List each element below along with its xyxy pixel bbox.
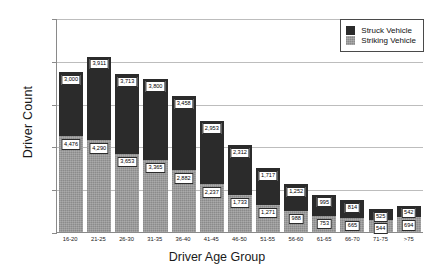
bar-segment-struck-vehicle: 3,458 [172, 96, 196, 170]
bar-segment-struck-vehicle: 3,911 [87, 57, 111, 141]
bar-segment-struck-vehicle: 2,312 [228, 145, 252, 194]
bar-segment-struck-vehicle: 1,252 [284, 184, 308, 211]
legend-swatch-struck-vehicle [346, 26, 355, 35]
x-axis-tick-label: 16-20 [56, 236, 84, 242]
bar-segment-striking-vehicle: 4,290 [87, 140, 111, 232]
x-axis-tick-label: 46-50 [225, 236, 253, 242]
bar-segment-struck-vehicle: 542 [397, 206, 421, 218]
bar-segment-striking-vehicle: 3,365 [143, 160, 167, 232]
bar-group: 1,252988 [284, 19, 308, 232]
bar-segment-striking-vehicle: 544 [369, 220, 393, 232]
x-axis-tick-label: >75 [395, 236, 423, 242]
bar-segment-struck-vehicle: 3,000 [59, 72, 83, 136]
legend-label-striking-vehicle: Striking Vehicle [361, 36, 416, 45]
bar-segment-striking-vehicle: 1,271 [256, 205, 280, 232]
bar-value-label-struck-vehicle: 525 [373, 212, 388, 222]
bar-value-label-striking-vehicle: 665 [345, 221, 360, 231]
bar-segment-striking-vehicle: 665 [340, 218, 364, 232]
bar-value-label-striking-vehicle: 1,271 [258, 208, 277, 218]
x-axis-tick-label: 31-35 [141, 236, 169, 242]
bar-group: 3,9114,290 [87, 19, 111, 232]
bar-group: 1,7171,271 [256, 19, 280, 232]
bar-value-label-struck-vehicle: 3,911 [90, 59, 109, 69]
bar-value-label-striking-vehicle: 694 [401, 220, 416, 230]
bar-value-label-striking-vehicle: 3,653 [118, 157, 137, 167]
bar-group: 3,8003,365 [143, 19, 167, 232]
y-axis-title: Driver Count [21, 52, 35, 192]
bar-value-label-struck-vehicle: 1,252 [287, 187, 306, 197]
bar-value-label-struck-vehicle: 3,458 [174, 99, 193, 109]
bar-value-label-struck-vehicle: 995 [317, 197, 332, 207]
bar-segment-struck-vehicle: 1,717 [256, 168, 280, 205]
bar-segment-struck-vehicle: 525 [369, 209, 393, 220]
x-axis-tick-labels: 16-2021-2526-3031-3536-4041-4546-5051-55… [56, 236, 423, 250]
bar-segment-striking-vehicle: 2,237 [200, 184, 224, 232]
bar-chart: Driver Count 02,0004,0006,0008,00010,000… [0, 0, 434, 279]
bar-segment-striking-vehicle: 753 [312, 216, 336, 232]
chart-legend: Struck Vehicle Striking Vehicle [340, 19, 424, 52]
bar-group: 2,3121,733 [228, 19, 252, 232]
legend-swatch-striking-vehicle [346, 36, 355, 45]
bar-value-label-striking-vehicle: 1,733 [230, 198, 249, 208]
bar-segment-striking-vehicle: 2,882 [172, 170, 196, 232]
bar-segment-striking-vehicle: 1,733 [228, 195, 252, 232]
bar-segment-struck-vehicle: 3,800 [143, 79, 167, 160]
bar-value-label-striking-vehicle: 4,290 [90, 143, 109, 153]
bar-value-label-striking-vehicle: 2,882 [174, 173, 193, 183]
bar-value-label-struck-vehicle: 542 [401, 208, 416, 218]
bar-value-label-striking-vehicle: 3,365 [146, 163, 165, 173]
legend-label-struck-vehicle: Struck Vehicle [361, 26, 412, 35]
bar-value-label-struck-vehicle: 3,800 [146, 81, 165, 91]
x-axis-tick-label: 66-70 [338, 236, 366, 242]
x-axis-tick-label: 21-25 [84, 236, 112, 242]
bar-segment-struck-vehicle: 995 [312, 195, 336, 216]
bar-segment-striking-vehicle: 4,476 [59, 136, 83, 232]
x-axis-title: Driver Age Group [0, 250, 434, 264]
bar-value-label-striking-vehicle: 4,476 [61, 139, 80, 149]
bar-group: 995753 [312, 19, 336, 232]
bar-value-label-striking-vehicle: 544 [373, 223, 388, 233]
legend-item-striking-vehicle: Striking Vehicle [346, 36, 416, 45]
x-axis-tick-label: 41-45 [197, 236, 225, 242]
bar-segment-struck-vehicle: 2,953 [200, 121, 224, 184]
y-axis-tick-mark [52, 233, 57, 234]
bar-group: 3,0004,476 [59, 19, 83, 232]
x-axis-tick-label: 26-30 [112, 236, 140, 242]
bar-value-label-striking-vehicle: 988 [289, 214, 304, 224]
bar-value-label-struck-vehicle: 1,717 [258, 171, 277, 181]
bar-value-label-striking-vehicle: 2,237 [202, 187, 221, 197]
x-axis-tick-label: 51-55 [254, 236, 282, 242]
bar-segment-struck-vehicle: 3,713 [115, 74, 139, 153]
bar-value-label-struck-vehicle: 814 [345, 203, 360, 213]
bar-group: 2,9532,237 [200, 19, 224, 232]
x-axis-tick-label: 56-60 [282, 236, 310, 242]
x-axis-tick-label: 61-65 [310, 236, 338, 242]
legend-item-struck-vehicle: Struck Vehicle [346, 26, 416, 35]
bar-value-label-struck-vehicle: 2,312 [230, 148, 249, 158]
bar-value-label-struck-vehicle: 2,953 [202, 123, 221, 133]
bar-segment-striking-vehicle: 988 [284, 211, 308, 232]
bar-segment-struck-vehicle: 814 [340, 200, 364, 217]
bar-segment-striking-vehicle: 694 [397, 217, 421, 232]
x-axis-tick-label: 36-40 [169, 236, 197, 242]
bar-value-label-struck-vehicle: 3,000 [61, 75, 80, 85]
bar-value-label-struck-vehicle: 3,713 [118, 77, 137, 87]
x-axis-tick-label: 71-75 [366, 236, 394, 242]
bar-segment-striking-vehicle: 3,653 [115, 154, 139, 232]
bar-group: 3,7133,653 [115, 19, 139, 232]
bar-group: 3,4582,882 [172, 19, 196, 232]
bar-value-label-striking-vehicle: 753 [317, 219, 332, 229]
